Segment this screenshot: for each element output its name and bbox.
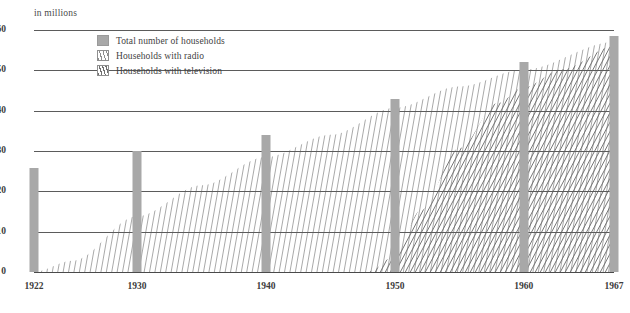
legend-label-television: Households with television [116, 66, 222, 76]
y-tick-label-40: 40 [0, 105, 6, 115]
y-tick-label-20: 20 [0, 185, 6, 195]
bar-1967 [610, 36, 619, 272]
y-tick-label-0: 0 [0, 266, 6, 276]
gridline-0 [34, 272, 614, 273]
x-tick-label-1940: 1940 [257, 281, 276, 291]
y-tick-label-30: 30 [0, 145, 6, 155]
x-tick-label-1967: 1967 [605, 281, 624, 291]
bar-1950 [390, 99, 399, 272]
chart-legend: Total number of households Households wi… [97, 34, 225, 77]
bar-1960 [519, 62, 528, 272]
bar-1940 [262, 135, 271, 272]
hatched-light-swatch-icon [97, 50, 109, 61]
x-tick-label-1922: 1922 [25, 281, 44, 291]
y-axis-unit-caption: in millions [34, 8, 77, 18]
y-tick-label-10: 10 [0, 226, 6, 236]
y-tick-label-50: 50 [0, 64, 6, 74]
y-tick-label-60: 60 [0, 24, 6, 34]
legend-item-radio: Households with radio [97, 49, 225, 62]
legend-label-radio: Households with radio [116, 51, 204, 61]
x-tick-label-1960: 1960 [514, 281, 533, 291]
legend-label-total-households: Total number of households [116, 36, 225, 46]
bar-1922 [30, 168, 39, 272]
hatched-dark-swatch-icon [97, 65, 109, 76]
bar-1930 [133, 151, 142, 272]
x-tick-label-1930: 1930 [128, 281, 147, 291]
legend-item-total-households: Total number of households [97, 34, 225, 47]
solid-gray-swatch-icon [97, 35, 109, 46]
x-tick-label-1950: 1950 [385, 281, 404, 291]
gridline-60 [34, 30, 614, 31]
chart-container: in millions 0102030405060 19221930194019… [0, 0, 630, 313]
legend-item-television: Households with television [97, 64, 225, 77]
